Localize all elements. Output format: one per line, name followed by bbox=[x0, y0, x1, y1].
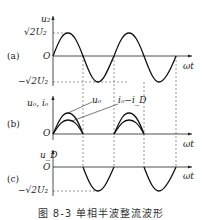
pos-peak-label: √2U₂ bbox=[24, 28, 47, 37]
origin-c: O bbox=[43, 163, 50, 172]
x-axis-label-b: ωt bbox=[183, 140, 194, 149]
panel-a-axes bbox=[53, 16, 192, 86]
x-axis-label-a: ωt bbox=[183, 62, 194, 71]
origin-a: O bbox=[43, 52, 50, 61]
uo-curve bbox=[53, 113, 144, 134]
io-curve bbox=[53, 120, 144, 134]
uo-leader bbox=[68, 102, 92, 113]
panel-c-axes bbox=[53, 150, 192, 196]
panel-label-a: (a) bbox=[7, 52, 19, 61]
neg-peak-label-a: −√2U₂ bbox=[18, 77, 48, 86]
curve-label-uo: uₒ bbox=[92, 96, 101, 105]
figure-caption: 图 8-3 单相半波整流波形 bbox=[0, 205, 202, 220]
panel-label-c: (c) bbox=[7, 175, 19, 184]
u2-sine-curve bbox=[53, 33, 176, 82]
io-leader bbox=[72, 104, 118, 121]
origin-b: O bbox=[43, 129, 50, 138]
uD-curve bbox=[83, 167, 176, 191]
axis-label-uD: u_D bbox=[40, 151, 58, 160]
curve-label-io-iD: iₒ−i_D bbox=[118, 96, 146, 105]
x-axis-label-c: ωt bbox=[183, 172, 194, 181]
axis-label-uo-io: uₒ, iₒ bbox=[27, 99, 48, 108]
neg-peak-label-c: −√2U₂ bbox=[18, 186, 48, 195]
panel-label-b: (b) bbox=[7, 120, 20, 129]
axis-label-u2: u₂ bbox=[41, 15, 50, 24]
